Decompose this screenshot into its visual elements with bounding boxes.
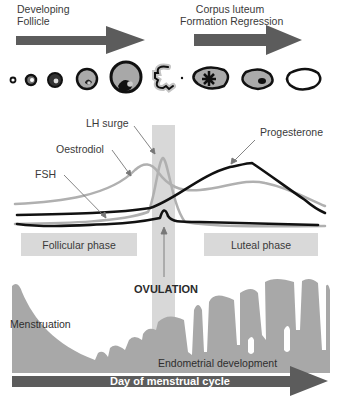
ovulation-label: OVULATION [134,283,198,295]
lh-surge-label: LH surge [86,117,129,129]
oestrodiol-label: Oestrodiol [56,143,104,155]
follicular-phase-box: Follicular phase [21,233,137,256]
follicle-stages [11,62,321,92]
follicular-phase-label: Follicular phase [42,239,116,251]
fsh-label: FSH [35,168,56,180]
menstruation-label: Menstruation [10,318,71,330]
endometrial-development-label: Endometrial development [158,357,277,369]
day-axis-label: Day of menstrual cycle [110,375,230,387]
developing-label-line2: Follicle [17,15,70,27]
corpus-luteum-arrow [194,25,302,55]
corpus-luteum-label: Corpus luteum Formation Regression [180,3,280,27]
developing-label-line1: Developing [17,3,70,15]
menstrual-cycle-diagram [0,0,338,402]
luteal-phase-label: Luteal phase [231,239,291,251]
developing-follicle-arrow [16,26,145,54]
luteal-phase-box: Luteal phase [204,233,318,256]
corpus-label-line1: Corpus luteum [180,3,280,15]
progesterone-label: Progesterone [260,126,323,138]
developing-follicle-label: Developing Follicle [17,3,70,27]
corpus-label-line2: Formation Regression [180,15,280,27]
